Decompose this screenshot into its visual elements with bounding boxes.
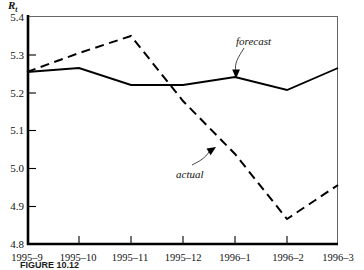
series-actual-line	[27, 36, 338, 219]
figure-caption: FIGURE 10.12	[20, 261, 79, 270]
annotation-forecast-leader	[235, 48, 244, 72]
figure-container: Rt 5.4 5.3 5.2 5.1 5.0 4.9 4.8 1995–9 19…	[0, 0, 364, 270]
chart-plot-area	[0, 0, 364, 270]
annotation-actual-leader	[192, 152, 209, 165]
series-forecast-line	[27, 68, 338, 90]
